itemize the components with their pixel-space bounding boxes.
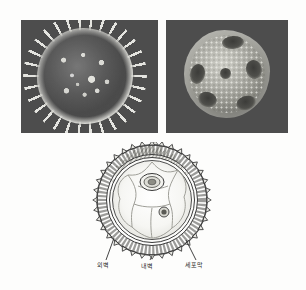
porate-pollen-grain-icon bbox=[184, 30, 270, 118]
label-intine: 내벽 bbox=[141, 263, 153, 269]
right-micrograph bbox=[166, 20, 288, 133]
leader-line-plasma bbox=[186, 240, 196, 260]
label-plasma-membrane: 세포막 bbox=[185, 262, 204, 268]
large-nucleus-icon bbox=[140, 174, 164, 191]
echinate-surface-speckles-icon bbox=[51, 46, 121, 110]
left-micrograph bbox=[21, 20, 158, 133]
leader-line-exine bbox=[106, 238, 114, 260]
pore-icon bbox=[220, 68, 231, 79]
figure-root: 외벽 내벽 세포막 bbox=[0, 0, 306, 290]
small-nucleus-icon bbox=[159, 207, 169, 217]
pollen-cross-section-diagram: 외벽 내벽 세포막 bbox=[78, 142, 230, 288]
label-exine: 외벽 bbox=[97, 262, 109, 268]
